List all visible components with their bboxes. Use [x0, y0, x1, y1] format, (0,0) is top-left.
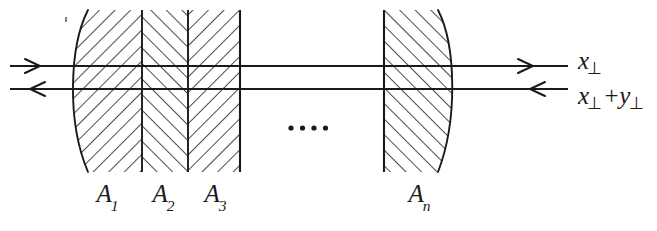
- perp-symbol-icon: ⊥: [587, 94, 602, 113]
- ray-label-x-perp-plus-y-perp: x⊥+y⊥: [578, 83, 645, 108]
- element-group-left: [60, 8, 242, 174]
- element-An: [382, 8, 462, 174]
- element-A3: [186, 8, 242, 174]
- element-label-A1: A1: [96, 181, 119, 211]
- continuation-dots: [288, 125, 328, 130]
- element-label-A3-sub: 3: [219, 197, 227, 214]
- element-label-An-sub: n: [423, 197, 431, 214]
- element-label-A2-base: A: [152, 180, 167, 207]
- perp-symbol-icon: ⊥: [587, 59, 602, 78]
- element-label-A1-sub: 1: [111, 197, 119, 214]
- perp-symbol-icon: ⊥: [629, 94, 644, 113]
- optical-ray-diagram: A1 A2 A3 An x⊥ x⊥+y⊥: [0, 0, 657, 231]
- element-label-A3-base: A: [204, 180, 219, 207]
- element-A2: [140, 8, 190, 174]
- element-label-An: An: [408, 181, 431, 211]
- element-label-A3: A3: [204, 181, 227, 211]
- plus-operator: +: [604, 82, 619, 109]
- ray-label-x-perp: x⊥: [578, 48, 604, 73]
- element-label-An-base: A: [408, 180, 423, 207]
- element-label-A2-sub: 2: [167, 197, 175, 214]
- element-label-A1-base: A: [96, 180, 111, 207]
- element-label-A2: A2: [152, 181, 175, 211]
